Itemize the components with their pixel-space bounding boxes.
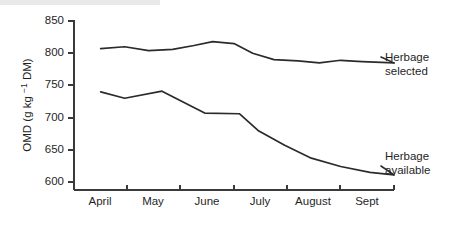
x-tick-label-sept: Sept <box>355 195 379 207</box>
label-herbage-available-line2: available <box>385 164 430 176</box>
label-herbage-available-line1: Herbage <box>385 150 429 162</box>
chart-figure: 850 800 750 700 650 600 OMD (g kg −1 DM) <box>0 0 457 227</box>
series-line-herbage-selected <box>101 42 394 63</box>
x-axis-tick-labels: April May June July August Sept <box>88 195 379 207</box>
x-tick-label-june: June <box>195 195 220 207</box>
y-axis-title-superscript: −1 <box>19 83 29 93</box>
y-axis-title-suffix: DM) <box>21 58 33 83</box>
x-tick-label-july: July <box>250 195 271 207</box>
y-tick-label-850: 850 <box>45 14 64 26</box>
x-tick-label-may: May <box>142 195 164 207</box>
x-axis-ticks <box>74 185 394 190</box>
x-tick-label-april: April <box>88 195 111 207</box>
x-tick-label-august: August <box>295 195 332 207</box>
label-herbage-selected-line2: selected <box>385 65 428 77</box>
y-axis-title-group: OMD (g kg −1 DM) <box>19 58 33 152</box>
y-tick-label-700: 700 <box>45 111 64 123</box>
y-tick-label-600: 600 <box>45 175 64 187</box>
series-line-herbage-available <box>101 91 394 175</box>
y-tick-label-750: 750 <box>45 78 64 90</box>
y-axis: 850 800 750 700 650 600 OMD (g kg −1 DM) <box>19 14 74 190</box>
omd-line-chart: 850 800 750 700 650 600 OMD (g kg −1 DM) <box>0 0 457 227</box>
label-herbage-selected-line1: Herbage <box>385 51 429 63</box>
annotation-herbage-available: Herbage available <box>385 150 430 176</box>
y-tick-label-800: 800 <box>45 46 64 58</box>
y-axis-ticks <box>68 21 74 182</box>
y-axis-title-prefix: OMD (g kg <box>21 93 33 152</box>
series-group <box>101 42 394 175</box>
y-axis-title: OMD (g kg −1 DM) <box>19 58 33 152</box>
annotation-herbage-selected: Herbage selected <box>385 51 429 77</box>
y-axis-tick-labels: 850 800 750 700 650 600 <box>45 14 64 187</box>
y-tick-label-650: 650 <box>45 143 64 155</box>
x-axis: April May June July August Sept <box>74 185 394 207</box>
